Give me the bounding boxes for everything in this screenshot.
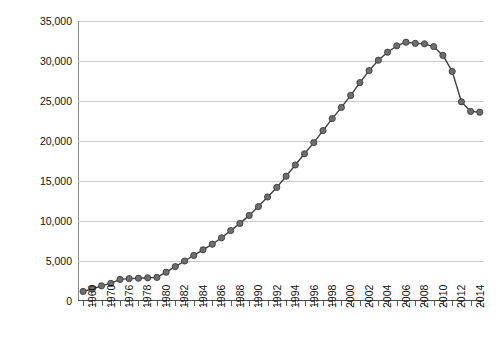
- x-axis-tick: [120, 301, 121, 306]
- x-axis-tick-label: 2002: [364, 285, 375, 308]
- data-point: [301, 151, 307, 157]
- x-axis-tick: [360, 301, 361, 306]
- series-line: [83, 42, 480, 291]
- data-point: [191, 252, 197, 258]
- x-axis-tick: [378, 301, 379, 306]
- x-axis-tick-label: 2008: [419, 285, 430, 308]
- x-axis-tick-label: 1982: [179, 285, 190, 308]
- y-axis-tick-label: 30,000: [28, 56, 72, 66]
- x-axis-tick-label: 2004: [382, 285, 393, 308]
- x-axis-tick: [194, 301, 195, 306]
- x-axis-tick-label: 2014: [475, 285, 486, 308]
- data-point: [375, 57, 381, 63]
- y-axis-tick-label: 5,000: [28, 256, 72, 266]
- data-point: [468, 108, 474, 114]
- x-axis-tick: [175, 301, 176, 306]
- y-axis-tick-label: 0: [28, 296, 72, 306]
- data-point: [172, 264, 178, 270]
- data-point: [394, 43, 400, 49]
- series-markers: [80, 39, 483, 294]
- data-point: [311, 140, 317, 146]
- x-axis-tick: [415, 301, 416, 306]
- data-point: [265, 194, 271, 200]
- data-point: [117, 276, 123, 282]
- data-point: [283, 173, 289, 179]
- data-point: [182, 258, 188, 264]
- data-point: [228, 228, 234, 234]
- data-series: [78, 21, 484, 301]
- y-axis-tick-label: 20,000: [28, 136, 72, 146]
- data-point: [154, 274, 160, 280]
- data-point: [458, 99, 464, 105]
- data-point: [145, 275, 151, 281]
- x-axis-tick-label: 2012: [456, 285, 467, 308]
- data-point: [440, 52, 446, 58]
- x-axis-tick-label: 1960: [87, 285, 98, 308]
- y-axis-tick-labels: 35,00030,00025,00020,00015,00010,0005,00…: [26, 0, 72, 357]
- x-axis-tick-label: 1978: [142, 285, 153, 308]
- data-point: [449, 68, 455, 74]
- x-axis-tick-label: 2006: [401, 285, 412, 308]
- x-axis-tick: [471, 301, 472, 306]
- x-axis-tick-label: 1998: [327, 285, 338, 308]
- data-point: [385, 49, 391, 55]
- x-axis-tick: [305, 301, 306, 306]
- data-point: [412, 40, 418, 46]
- data-point: [338, 104, 344, 110]
- x-axis-tick-label: 1984: [198, 285, 209, 308]
- data-point: [348, 92, 354, 98]
- x-axis-tick-label: 1988: [235, 285, 246, 308]
- x-axis-tick: [286, 301, 287, 306]
- data-point: [163, 269, 169, 275]
- data-point: [292, 162, 298, 168]
- x-axis-tick-label: 2000: [345, 285, 356, 308]
- data-point: [431, 44, 437, 50]
- data-point: [246, 212, 252, 218]
- x-axis-tick-label: 1986: [216, 285, 227, 308]
- data-point: [477, 109, 483, 115]
- x-axis-tick-label: 1990: [253, 285, 264, 308]
- data-point: [218, 235, 224, 241]
- x-axis-tick-labels: 1960197019761978198019821984198619881990…: [78, 308, 484, 356]
- data-point: [209, 241, 215, 247]
- x-axis-tick: [323, 301, 324, 306]
- data-point: [200, 247, 206, 253]
- y-axis-tick-label: 25,000: [28, 96, 72, 106]
- x-axis-tick-label: 1980: [161, 285, 172, 308]
- data-point: [135, 275, 141, 281]
- data-point: [421, 41, 427, 47]
- x-axis-tick: [341, 301, 342, 306]
- x-axis-tick: [397, 301, 398, 306]
- x-axis-tick-label: 1994: [290, 285, 301, 308]
- x-axis-tick: [268, 301, 269, 306]
- x-axis-tick: [231, 301, 232, 306]
- x-axis-tick: [249, 301, 250, 306]
- data-point: [357, 80, 363, 86]
- x-axis-tick-label: 1996: [309, 285, 320, 308]
- x-axis-tick: [102, 301, 103, 306]
- x-axis-tick-label: 2010: [438, 285, 449, 308]
- x-axis-tick-label: 1970: [106, 285, 117, 308]
- x-axis-tick-label: 1992: [272, 285, 283, 308]
- x-axis-tick: [138, 301, 139, 306]
- line-chart: Subscriptions in Thousands 35,00030,0002…: [0, 0, 499, 357]
- y-axis-tick-label: 15,000: [28, 176, 72, 186]
- x-axis-tick: [157, 301, 158, 306]
- data-point: [126, 276, 132, 282]
- data-point: [237, 220, 243, 226]
- x-axis-tick: [83, 301, 84, 306]
- data-point: [366, 68, 372, 74]
- plot-area: [78, 21, 484, 301]
- data-point: [329, 116, 335, 122]
- data-point: [255, 204, 261, 210]
- x-axis-tick: [212, 301, 213, 306]
- data-point: [403, 39, 409, 45]
- x-axis-tick: [452, 301, 453, 306]
- data-point: [98, 283, 104, 289]
- data-point: [274, 184, 280, 190]
- y-axis-tick-label: 10,000: [28, 216, 72, 226]
- x-axis-tick: [434, 301, 435, 306]
- x-axis-tick-label: 1976: [124, 285, 135, 308]
- data-point: [320, 128, 326, 134]
- y-axis-tick-label: 35,000: [28, 16, 72, 26]
